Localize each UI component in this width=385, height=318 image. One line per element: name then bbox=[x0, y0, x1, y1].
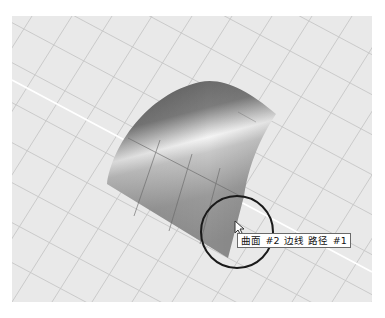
tooltip-surface-label: 曲面 bbox=[241, 235, 261, 246]
tooltip-edge-label: 边线 bbox=[284, 235, 304, 246]
tooltip-path-id: #1 bbox=[333, 235, 347, 246]
object-snap-tooltip: 曲面#2边线路径#1 bbox=[237, 233, 351, 248]
surface-object bbox=[107, 81, 276, 258]
tooltip-surface-id: #2 bbox=[265, 235, 279, 246]
3d-viewport[interactable]: 曲面#2边线路径#1 bbox=[12, 16, 372, 302]
viewport-scene bbox=[12, 16, 372, 302]
tooltip-path-label: 路径 bbox=[308, 235, 328, 246]
